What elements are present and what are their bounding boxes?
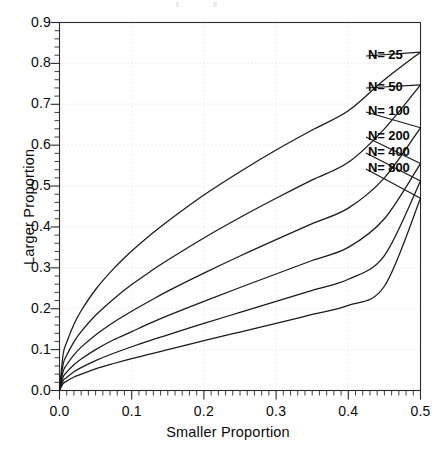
axis-ticks [51, 23, 421, 400]
x-tick-label: 0.0 [40, 403, 80, 419]
series-label-200: N= 200 [368, 128, 410, 143]
y-axis-title: Larger Proportion [21, 149, 37, 265]
plot-frame [60, 23, 421, 391]
y-tick-label: 0.2 [17, 300, 51, 316]
plot-area [0, 0, 437, 457]
x-tick-label: 0.2 [184, 403, 224, 419]
x-axis-title: Smaller Proportion [128, 424, 328, 440]
x-tick-label: 0.5 [401, 403, 437, 419]
x-tick-label: 0.3 [256, 403, 296, 419]
y-tick-label: 0.0 [17, 382, 51, 398]
series-label-25: N= 25 [368, 47, 403, 62]
y-tick-label: 0.9 [17, 14, 51, 30]
series-label-50: N= 50 [368, 79, 403, 94]
y-tick-label: 0.1 [17, 341, 51, 357]
y-tick-label: 0.7 [17, 95, 51, 111]
data-curves [60, 52, 421, 390]
series-label-100: N= 100 [368, 103, 410, 118]
gridlines [60, 23, 421, 391]
x-tick-label: 0.4 [328, 403, 368, 419]
y-tick-label: 0.8 [17, 54, 51, 70]
chart-container: 0.00.10.20.30.40.50.60.70.80.9 0.00.10.2… [0, 0, 437, 457]
label-leader-lines [366, 52, 421, 198]
x-tick-label: 0.1 [112, 403, 152, 419]
series-label-800: N= 800 [368, 160, 410, 175]
series-label-400: N= 400 [368, 144, 410, 159]
